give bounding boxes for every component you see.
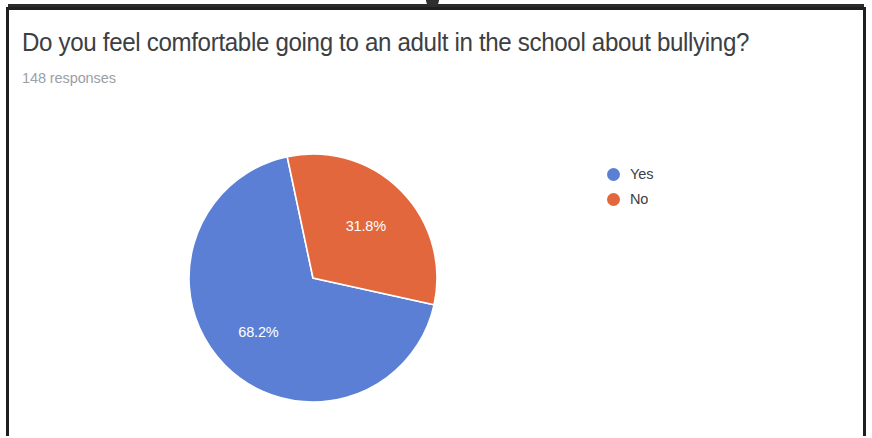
pie-chart: 68.2% 31.8% Yes No <box>9 10 863 436</box>
chart-legend: Yes No <box>607 162 747 212</box>
pie-slice-label-yes: 68.2% <box>238 324 278 340</box>
survey-result-card: Do you feel comfortable going to an adul… <box>6 7 866 436</box>
pie-slices <box>189 154 437 402</box>
legend-swatch-yes-icon <box>607 168 620 181</box>
pie-svg: 68.2% 31.8% <box>183 148 443 408</box>
legend-swatch-no-icon <box>607 193 620 206</box>
pie-slice-label-no: 31.8% <box>346 218 386 234</box>
card-content: Do you feel comfortable going to an adul… <box>9 10 863 436</box>
legend-label-yes: Yes <box>630 167 653 182</box>
pie-graphic: 68.2% 31.8% <box>183 148 443 408</box>
legend-item-yes[interactable]: Yes <box>607 162 747 187</box>
legend-item-no[interactable]: No <box>607 187 747 212</box>
scan-edge-artifact <box>0 0 872 8</box>
legend-label-no: No <box>630 192 648 207</box>
